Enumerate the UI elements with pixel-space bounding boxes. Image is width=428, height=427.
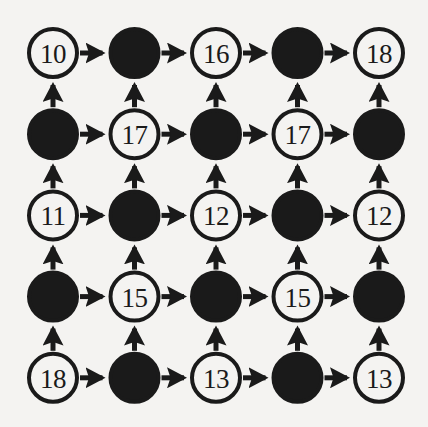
node-circle (111, 354, 159, 402)
node-label: 10 (40, 39, 66, 69)
graph-node-filled-r3-c0[interactable] (29, 273, 77, 321)
graph-node-filled-r4-c1[interactable] (111, 354, 159, 402)
node-label: 16 (203, 39, 229, 69)
grid-graph-svg: 10161817171112121515181313 (0, 0, 428, 427)
graph-node-filled-r1-c0[interactable] (29, 110, 77, 158)
node-label: 15 (285, 283, 311, 313)
graph-node-open-r1-c3[interactable]: 17 (274, 110, 322, 158)
graph-node-open-r1-c1[interactable]: 17 (111, 110, 159, 158)
node-label: 13 (203, 364, 229, 394)
node-circle (111, 29, 159, 77)
graph-node-filled-r2-c3[interactable] (274, 191, 322, 239)
node-circle (192, 110, 240, 158)
node-label: 12 (366, 201, 392, 231)
node-label: 12 (203, 201, 229, 231)
node-label: 18 (366, 39, 392, 69)
graph-node-filled-r2-c1[interactable] (111, 191, 159, 239)
graph-node-filled-r4-c3[interactable] (274, 354, 322, 402)
node-circle (29, 110, 77, 158)
graph-node-filled-r0-c1[interactable] (111, 29, 159, 77)
node-label: 18 (40, 364, 66, 394)
graph-node-open-r4-c2[interactable]: 13 (192, 354, 240, 402)
graph-node-open-r2-c0[interactable]: 11 (29, 191, 77, 239)
node-circle (355, 110, 403, 158)
graph-node-filled-r3-c4[interactable] (355, 273, 403, 321)
node-circle (274, 191, 322, 239)
graph-node-open-r2-c2[interactable]: 12 (192, 191, 240, 239)
graph-node-filled-r3-c2[interactable] (192, 273, 240, 321)
grid-graph-canvas: 10161817171112121515181313 (0, 0, 428, 427)
graph-node-open-r4-c0[interactable]: 18 (29, 354, 77, 402)
node-circle (274, 354, 322, 402)
graph-node-open-r3-c3[interactable]: 15 (274, 273, 322, 321)
graph-node-open-r0-c2[interactable]: 16 (192, 29, 240, 77)
graph-node-filled-r1-c4[interactable] (355, 110, 403, 158)
node-circle (274, 29, 322, 77)
graph-node-open-r3-c1[interactable]: 15 (111, 273, 159, 321)
graph-node-open-r4-c4[interactable]: 13 (355, 354, 403, 402)
graph-node-filled-r0-c3[interactable] (274, 29, 322, 77)
node-label: 13 (366, 364, 392, 394)
graph-node-open-r0-c4[interactable]: 18 (355, 29, 403, 77)
node-label: 17 (122, 120, 148, 150)
node-circle (29, 273, 77, 321)
node-circle (192, 273, 240, 321)
node-label: 11 (41, 201, 66, 231)
graph-node-filled-r1-c2[interactable] (192, 110, 240, 158)
node-label: 17 (285, 120, 311, 150)
graph-node-open-r2-c4[interactable]: 12 (355, 191, 403, 239)
node-circle (355, 273, 403, 321)
graph-node-open-r0-c0[interactable]: 10 (29, 29, 77, 77)
node-label: 15 (122, 283, 148, 313)
node-circle (111, 191, 159, 239)
